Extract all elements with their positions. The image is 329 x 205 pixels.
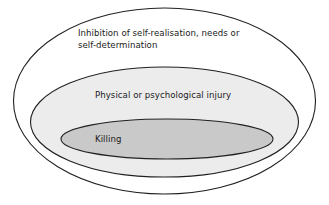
outer-ellipse-label-line-1: Inhibition of self-realisation, needs or — [78, 28, 240, 38]
outer-ellipse-label-line-2: self-determination — [78, 40, 157, 50]
inner-ellipse-shape — [61, 119, 273, 159]
middle-ellipse-label: Physical or psychological injury — [95, 90, 231, 100]
middle-ellipse-label-line-1: Physical or psychological injury — [95, 90, 231, 100]
inner-ellipse-label-line-1: Killing — [95, 134, 121, 144]
nested-ellipse-diagram: Inhibition of self-realisation, needs or… — [0, 0, 329, 205]
diagram-canvas: Inhibition of self-realisation, needs or… — [0, 0, 329, 205]
inner-ellipse-label: Killing — [95, 134, 121, 144]
